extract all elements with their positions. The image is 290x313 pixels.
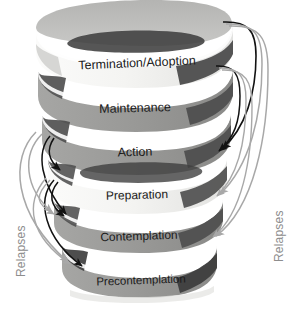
stages-of-change-figure: Termination/Adoption Maintenance Action … [0,0,290,313]
relapses-label-left: Relapses [14,225,28,277]
relapses-label-right: Relapses [272,210,286,262]
relapse-arrows-graphic [0,0,290,313]
relapse-arrows-right [213,22,268,237]
relapse-arrows-left [20,132,82,266]
